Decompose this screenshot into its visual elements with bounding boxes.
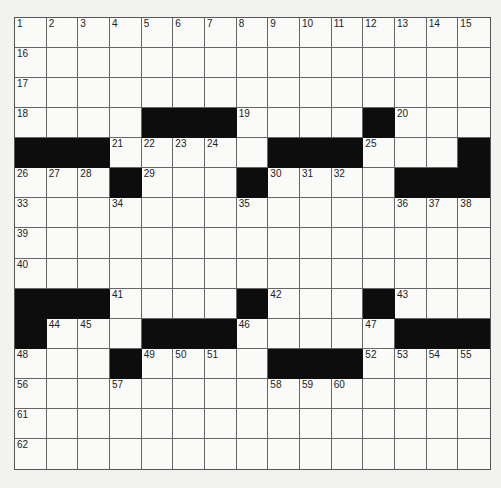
crossword-cell[interactable]: 9 xyxy=(268,18,300,48)
crossword-cell[interactable]: 14 xyxy=(427,18,459,48)
crossword-cell[interactable] xyxy=(142,289,174,319)
crossword-cell[interactable] xyxy=(363,198,395,228)
crossword-cell[interactable]: 39 xyxy=(15,228,47,258)
crossword-cell[interactable] xyxy=(173,409,205,439)
crossword-cell[interactable]: 34 xyxy=(110,198,142,228)
crossword-cell[interactable] xyxy=(268,198,300,228)
crossword-cell[interactable] xyxy=(205,198,237,228)
crossword-cell[interactable] xyxy=(78,78,110,108)
crossword-cell[interactable]: 5 xyxy=(142,18,174,48)
crossword-cell[interactable] xyxy=(78,198,110,228)
crossword-cell[interactable] xyxy=(237,78,269,108)
crossword-cell[interactable]: 40 xyxy=(15,259,47,289)
crossword-cell[interactable]: 52 xyxy=(363,349,395,379)
crossword-cell[interactable] xyxy=(142,78,174,108)
crossword-cell[interactable] xyxy=(205,78,237,108)
crossword-cell[interactable] xyxy=(427,48,459,78)
crossword-cell[interactable]: 56 xyxy=(15,379,47,409)
crossword-cell[interactable]: 45 xyxy=(78,319,110,349)
crossword-cell[interactable]: 24 xyxy=(205,138,237,168)
crossword-cell[interactable]: 32 xyxy=(332,168,364,198)
crossword-cell[interactable] xyxy=(332,48,364,78)
crossword-cell[interactable]: 48 xyxy=(15,349,47,379)
crossword-cell[interactable] xyxy=(395,439,427,469)
crossword-cell[interactable] xyxy=(110,108,142,138)
crossword-cell[interactable]: 33 xyxy=(15,198,47,228)
crossword-cell[interactable] xyxy=(173,168,205,198)
crossword-cell[interactable]: 57 xyxy=(110,379,142,409)
crossword-cell[interactable] xyxy=(458,379,490,409)
crossword-cell[interactable]: 26 xyxy=(15,168,47,198)
crossword-cell[interactable] xyxy=(47,228,79,258)
crossword-cell[interactable] xyxy=(300,289,332,319)
crossword-cell[interactable] xyxy=(173,228,205,258)
crossword-cell[interactable] xyxy=(237,439,269,469)
crossword-cell[interactable] xyxy=(142,409,174,439)
crossword-cell[interactable] xyxy=(237,259,269,289)
crossword-cell[interactable] xyxy=(78,259,110,289)
crossword-cell[interactable] xyxy=(173,439,205,469)
crossword-cell[interactable]: 22 xyxy=(142,138,174,168)
crossword-cell[interactable]: 38 xyxy=(458,198,490,228)
crossword-cell[interactable] xyxy=(300,319,332,349)
crossword-cell[interactable] xyxy=(47,379,79,409)
crossword-cell[interactable] xyxy=(300,409,332,439)
crossword-cell[interactable] xyxy=(458,78,490,108)
crossword-cell[interactable]: 7 xyxy=(205,18,237,48)
crossword-cell[interactable] xyxy=(268,78,300,108)
crossword-cell[interactable] xyxy=(78,349,110,379)
crossword-cell[interactable] xyxy=(458,289,490,319)
crossword-cell[interactable] xyxy=(173,48,205,78)
crossword-cell[interactable] xyxy=(142,48,174,78)
crossword-cell[interactable]: 60 xyxy=(332,379,364,409)
crossword-cell[interactable] xyxy=(205,259,237,289)
crossword-cell[interactable] xyxy=(268,228,300,258)
crossword-cell[interactable] xyxy=(47,78,79,108)
crossword-cell[interactable] xyxy=(47,108,79,138)
crossword-cell[interactable]: 4 xyxy=(110,18,142,48)
crossword-cell[interactable] xyxy=(47,198,79,228)
crossword-cell[interactable] xyxy=(458,259,490,289)
crossword-cell[interactable] xyxy=(173,289,205,319)
crossword-cell[interactable] xyxy=(363,259,395,289)
crossword-cell[interactable]: 23 xyxy=(173,138,205,168)
crossword-cell[interactable] xyxy=(110,259,142,289)
crossword-cell[interactable] xyxy=(205,409,237,439)
crossword-cell[interactable]: 2 xyxy=(47,18,79,48)
crossword-cell[interactable]: 25 xyxy=(363,138,395,168)
crossword-cell[interactable] xyxy=(268,409,300,439)
crossword-cell[interactable] xyxy=(205,439,237,469)
crossword-cell[interactable] xyxy=(395,409,427,439)
crossword-cell[interactable] xyxy=(427,138,459,168)
crossword-cell[interactable] xyxy=(363,409,395,439)
crossword-cell[interactable] xyxy=(237,228,269,258)
crossword-cell[interactable] xyxy=(110,319,142,349)
crossword-cell[interactable] xyxy=(395,379,427,409)
crossword-cell[interactable] xyxy=(237,409,269,439)
crossword-cell[interactable] xyxy=(110,228,142,258)
crossword-cell[interactable] xyxy=(142,379,174,409)
crossword-cell[interactable] xyxy=(300,198,332,228)
crossword-cell[interactable] xyxy=(363,228,395,258)
crossword-cell[interactable]: 49 xyxy=(142,349,174,379)
crossword-cell[interactable] xyxy=(47,259,79,289)
crossword-cell[interactable] xyxy=(427,439,459,469)
crossword-cell[interactable] xyxy=(47,439,79,469)
crossword-cell[interactable] xyxy=(363,439,395,469)
crossword-cell[interactable] xyxy=(395,48,427,78)
crossword-cell[interactable] xyxy=(78,439,110,469)
crossword-cell[interactable]: 20 xyxy=(395,108,427,138)
crossword-cell[interactable]: 42 xyxy=(268,289,300,319)
crossword-cell[interactable]: 41 xyxy=(110,289,142,319)
crossword-cell[interactable] xyxy=(300,78,332,108)
crossword-cell[interactable] xyxy=(427,379,459,409)
crossword-cell[interactable] xyxy=(173,259,205,289)
crossword-cell[interactable]: 54 xyxy=(427,349,459,379)
crossword-cell[interactable] xyxy=(332,289,364,319)
crossword-cell[interactable] xyxy=(300,259,332,289)
crossword-cell[interactable] xyxy=(142,198,174,228)
crossword-cell[interactable] xyxy=(205,379,237,409)
crossword-cell[interactable]: 19 xyxy=(237,108,269,138)
crossword-cell[interactable] xyxy=(205,48,237,78)
crossword-cell[interactable]: 30 xyxy=(268,168,300,198)
